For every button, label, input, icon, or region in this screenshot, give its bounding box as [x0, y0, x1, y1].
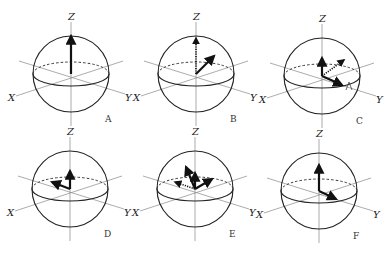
sphere-panel-b: ZXYB	[132, 11, 258, 126]
sphere-panel-a: ZXYA	[7, 11, 133, 126]
z-axis-label: Z	[192, 11, 201, 22]
x-axis-label: X	[258, 94, 267, 105]
x-axis-label: X	[131, 207, 140, 218]
z-axis-label: Z	[67, 11, 76, 22]
sphere-panel-f: ZXYF	[255, 128, 381, 243]
x-axis-label: X	[132, 92, 141, 103]
x-axis-label: X	[6, 207, 15, 218]
magnetization-vector-arrow	[52, 182, 70, 189]
y-axis-label: Y	[250, 92, 258, 103]
x-axis-label: X	[255, 209, 264, 220]
bloch-sphere-figure: ZXYAZXYBZXYCZXYDZXYEZXYF	[0, 0, 388, 257]
panel-caption: C	[356, 116, 363, 126]
z-axis-label: Z	[191, 126, 200, 137]
x-axis-label: X	[7, 92, 16, 103]
panel-caption: B	[230, 114, 237, 124]
sphere-panel-e: ZXYE	[131, 126, 257, 241]
z-axis-label: Z	[315, 128, 324, 139]
magnetization-vector-arrow	[322, 76, 342, 85]
y-axis-label: Y	[376, 94, 384, 105]
panel-caption: F	[353, 231, 359, 241]
z-axis-label: Z	[66, 126, 75, 137]
magnetization-vector-arrow	[196, 56, 214, 74]
y-axis-label: Y	[124, 207, 132, 218]
panel-caption: A	[104, 114, 112, 124]
panel-caption: E	[229, 229, 236, 239]
z-axis-label: Z	[318, 13, 327, 24]
y-axis-label: Y	[373, 209, 381, 220]
magnetization-vector-arrow	[195, 179, 212, 189]
sphere-panel-c: ZXYC	[258, 13, 384, 128]
panel-caption: D	[104, 229, 111, 239]
y-axis-label: Y	[125, 92, 133, 103]
sphere-panel-d: ZXYD	[6, 126, 132, 241]
